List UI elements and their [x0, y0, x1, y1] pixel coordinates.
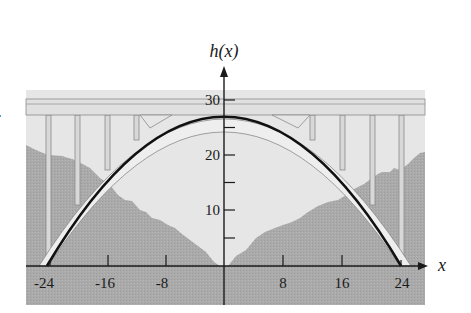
- bridge-deck: [26, 99, 425, 115]
- bridge-arch-chart: -24 -16 -8 8 16 24 10 20 30 h(x) x: [0, 0, 471, 313]
- x-tick-label: -24: [34, 275, 54, 291]
- x-tick-label: 8: [279, 275, 287, 291]
- x-tick-label: 16: [335, 275, 351, 291]
- x-tick-label: -8: [156, 275, 169, 291]
- y-tick-label: 10: [205, 202, 220, 218]
- y-axis-title: h(x): [210, 41, 239, 62]
- y-tick-label: 30: [205, 92, 220, 108]
- x-axis-title: x: [437, 255, 446, 275]
- x-tick-label: 24: [395, 275, 411, 291]
- y-axis-arrow-icon: [220, 66, 228, 77]
- x-tick-label: -16: [95, 275, 115, 291]
- ground-band: [26, 266, 425, 305]
- y-tick-label: 20: [205, 147, 220, 163]
